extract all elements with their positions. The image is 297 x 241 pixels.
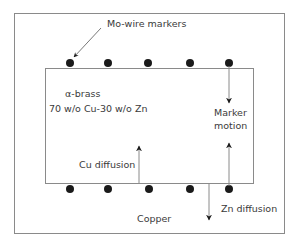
- marker-dot: [225, 185, 233, 193]
- marker-dot: [186, 185, 194, 193]
- top-markers: [66, 59, 233, 67]
- marker-motion-label-1: Marker: [214, 107, 247, 118]
- cu-diffusion-label: Cu diffusion: [79, 159, 135, 170]
- alloy-composition-label: 70 w/o Cu-30 w/o Zn: [49, 103, 147, 114]
- marker-dot: [225, 59, 233, 67]
- marker-dot: [104, 185, 112, 193]
- markers-pointer-arrow: [74, 28, 101, 57]
- zn-diffusion-label: Zn diffusion: [221, 203, 277, 214]
- marker-dot: [66, 59, 74, 67]
- copper-label: Copper: [137, 213, 171, 224]
- marker-motion-label-2: motion: [214, 120, 247, 131]
- marker-dot: [66, 185, 74, 193]
- markers-label: Mo-wire markers: [107, 18, 186, 29]
- bottom-markers: [66, 185, 233, 193]
- marker-dot: [104, 59, 112, 67]
- marker-dot: [145, 185, 153, 193]
- marker-dot: [186, 59, 194, 67]
- alloy-name-label: α-brass: [65, 88, 100, 99]
- kirkendall-diagram: Mo-wire markers α-brass 70 w/o Cu-30 w/o…: [0, 0, 297, 241]
- marker-dot: [144, 59, 152, 67]
